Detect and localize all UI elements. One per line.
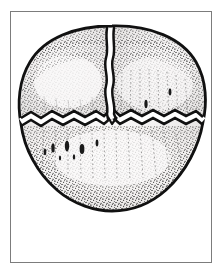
figure-root xyxy=(0,0,224,273)
fossil-specimen-illustration xyxy=(0,0,224,273)
lower-valve xyxy=(18,124,208,216)
upper-left-lobe xyxy=(18,24,114,124)
upper-right-lobe xyxy=(112,24,208,124)
lower-valve-boss xyxy=(54,130,170,186)
vertical-suture-gap xyxy=(108,28,112,119)
